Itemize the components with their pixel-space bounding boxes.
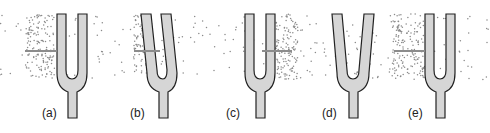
panel-label-d: (d) xyxy=(322,106,337,120)
tuning-fork-b xyxy=(141,14,177,118)
tuning-fork-d xyxy=(332,14,374,118)
tuning-fork-e xyxy=(425,14,455,118)
tuning-fork-c xyxy=(245,14,275,118)
compression-dots-e xyxy=(391,13,424,78)
panel-label-a: (a) xyxy=(42,106,57,120)
tuning-fork-diagram: (a) (b) (c) (d) (e) xyxy=(0,0,490,133)
panel-label-c: (c) xyxy=(226,106,240,120)
compression-dots-c xyxy=(275,13,298,80)
tuning-fork-a xyxy=(57,14,87,118)
compression-dots-a xyxy=(25,14,54,78)
panel-label-b: (b) xyxy=(130,106,145,120)
panel-label-e: (e) xyxy=(408,106,423,120)
